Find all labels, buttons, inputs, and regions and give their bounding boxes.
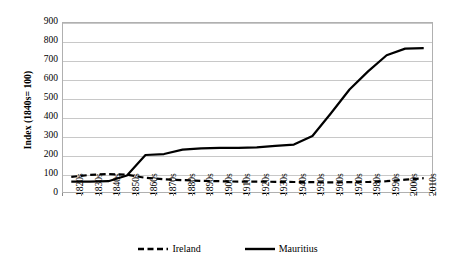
x-axis-tick-mark — [322, 193, 323, 196]
x-axis-tick-label: 1890s — [205, 136, 215, 196]
x-axis-tick-label: 1820s — [75, 136, 85, 196]
x-axis-tick-mark — [155, 193, 156, 196]
legend-swatch-mauritius — [245, 246, 275, 252]
x-axis-tick-mark — [266, 193, 267, 196]
x-axis-tick-label: 1920s — [261, 136, 271, 196]
x-axis-tick-mark — [377, 193, 378, 196]
x-axis-tick-labels: 1820s1830s1840s1850s1860s1870s1880s1890s… — [0, 0, 456, 265]
x-axis-tick-mark — [229, 193, 230, 196]
x-axis-tick-label: 1980s — [372, 136, 382, 196]
x-axis-tick-label: 1830s — [94, 136, 104, 196]
x-axis-tick-label: 1940s — [298, 136, 308, 196]
legend-swatch-ireland — [138, 246, 168, 252]
x-axis-tick-mark — [303, 193, 304, 196]
x-axis-tick-mark — [99, 193, 100, 196]
legend-item-mauritius[interactable]: Mauritius — [245, 244, 318, 254]
x-axis-tick-label: 1860s — [149, 136, 159, 196]
legend-label: Ireland — [172, 244, 200, 254]
x-axis-tick-mark — [248, 193, 249, 196]
x-axis-tick-label: 1870s — [168, 136, 178, 196]
legend-label: Mauritius — [279, 244, 318, 254]
x-axis-tick-label: 2000s — [409, 136, 419, 196]
x-axis-tick-mark — [192, 193, 193, 196]
x-axis-tick-mark — [396, 193, 397, 196]
x-axis-tick-mark — [81, 193, 82, 196]
x-axis-tick-label: 1910s — [242, 136, 252, 196]
x-axis-tick-mark — [62, 193, 63, 196]
x-axis-tick-label: 1850s — [131, 136, 141, 196]
x-axis-tick-label: 1970s — [354, 136, 364, 196]
x-axis-tick-label: 1840s — [112, 136, 122, 196]
x-axis-tick-label: 1900s — [224, 136, 234, 196]
x-axis-tick-mark — [285, 193, 286, 196]
x-axis-tick-mark — [340, 193, 341, 196]
x-axis-tick-label: 1930s — [279, 136, 289, 196]
x-axis-tick-label: 1950s — [316, 136, 326, 196]
x-axis-tick-mark — [433, 193, 434, 196]
x-axis-tick-label: 1990s — [391, 136, 401, 196]
x-axis-tick-mark — [173, 193, 174, 196]
x-axis-tick-mark — [414, 193, 415, 196]
x-axis-tick-label: 1960s — [335, 136, 345, 196]
x-axis-tick-label: 1880s — [187, 136, 197, 196]
x-axis-tick-mark — [118, 193, 119, 196]
x-axis-tick-label: 2010s — [428, 136, 438, 196]
x-axis-tick-mark — [136, 193, 137, 196]
legend-item-ireland[interactable]: Ireland — [138, 244, 200, 254]
chart-container: Index (1840s= 100) 010020030040050060070… — [0, 0, 456, 265]
x-axis-tick-mark — [359, 193, 360, 196]
x-axis-tick-mark — [210, 193, 211, 196]
chart-legend: IrelandMauritius — [0, 244, 456, 254]
